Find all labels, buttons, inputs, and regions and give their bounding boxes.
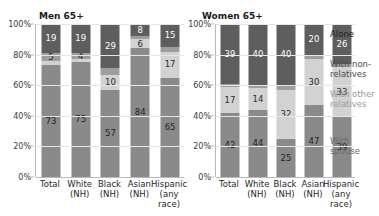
- x-tick-label: Hispanic(any race): [321, 179, 361, 209]
- bar-segment[interactable]: 32: [277, 90, 296, 139]
- y-tick-label: 60%: [193, 81, 211, 90]
- stacked-bar[interactable]: 75419: [71, 24, 90, 177]
- stacked-bar[interactable]: 73519: [41, 24, 60, 177]
- bar-segment-value: 42: [225, 141, 236, 150]
- y-tick-mark: [211, 115, 214, 116]
- gridline: [36, 146, 184, 147]
- y-tick-mark: [31, 146, 34, 147]
- y-tick-label: 40%: [193, 111, 211, 120]
- x-axis-women: TotalWhite(NH)Black(NH)Asian(NH)Hispanic…: [215, 179, 354, 215]
- bar-segment-value: 17: [225, 96, 236, 105]
- stacked-bar[interactable]: 651715: [161, 24, 180, 177]
- legend-item-other-relatives: With other relatives: [330, 90, 379, 109]
- bar-segment[interactable]: 73: [41, 65, 60, 177]
- panel-women-title: Women 65+: [202, 11, 263, 21]
- bar-segment[interactable]: 29: [101, 24, 120, 68]
- bar-segment[interactable]: [161, 47, 180, 52]
- bar-column[interactable]: 73519: [36, 24, 66, 177]
- stacked-bar[interactable]: 571029: [101, 24, 120, 177]
- stacked-bar-chart: Living arrangements of people age 65 and…: [0, 0, 379, 216]
- y-tick-label: 20%: [13, 142, 31, 151]
- y-tick-mark: [211, 177, 214, 178]
- plot-area-men: 73519754195710298468651715: [35, 24, 184, 177]
- bar-segment-value: 47: [309, 137, 320, 146]
- y-tick-mark: [211, 85, 214, 86]
- bar-segment[interactable]: [131, 36, 150, 39]
- bar-segment-value: 6: [138, 40, 143, 49]
- bar-segment-value: 57: [105, 129, 116, 138]
- x-tick-label-line1: Total: [40, 179, 60, 189]
- bar-segment-value: 15: [165, 31, 176, 40]
- bar-segment[interactable]: 8: [131, 24, 150, 36]
- legend-item-non-relatives: With non-relatives: [330, 60, 379, 79]
- x-tick-label-line2: (any race): [321, 189, 361, 209]
- bar-segment[interactable]: 30: [305, 59, 324, 105]
- bar-segment[interactable]: 42: [221, 113, 240, 177]
- bar-segment[interactable]: 75: [71, 62, 90, 177]
- x-axis-men: TotalWhite(NH)Black(NH)Asian(NH)Hispanic…: [35, 179, 183, 215]
- bar-segment-value: 19: [75, 34, 86, 43]
- y-tick-mark: [31, 177, 34, 178]
- bar-segment[interactable]: 84: [131, 48, 150, 177]
- bar-segment[interactable]: 10: [101, 75, 120, 90]
- gridline: [36, 177, 184, 178]
- bar-segment[interactable]: 44: [249, 110, 268, 177]
- y-tick-mark: [211, 54, 214, 55]
- bar-segment[interactable]: [101, 68, 120, 74]
- bar-segment[interactable]: 15: [161, 24, 180, 47]
- bar-segment-value: 14: [253, 95, 264, 104]
- y-tick-label: 40%: [13, 111, 31, 120]
- stacked-bar[interactable]: 8468: [131, 24, 150, 177]
- bar-column[interactable]: 473020: [300, 24, 328, 177]
- x-tick-label-line1: Hispanic: [151, 179, 187, 189]
- legend-item-alone: Alone: [330, 30, 354, 40]
- stacked-bar[interactable]: 421739: [221, 24, 240, 177]
- bar-segment[interactable]: 25: [277, 139, 296, 177]
- y-tick-label: 60%: [13, 81, 31, 90]
- bar-column[interactable]: 571029: [96, 24, 126, 177]
- y-tick-mark: [211, 24, 214, 25]
- y-axis-women: 100%80%60%40%20%0%: [180, 24, 214, 177]
- bar-segment[interactable]: 57: [101, 90, 120, 177]
- bar-segment[interactable]: 20: [305, 24, 324, 55]
- bars-men: 73519754195710298468651715: [36, 24, 184, 177]
- y-tick-label: 100%: [8, 20, 31, 29]
- bar-column[interactable]: 421739: [216, 24, 244, 177]
- y-tick-mark: [31, 24, 34, 25]
- bar-segment[interactable]: 19: [71, 24, 90, 53]
- bar-segment[interactable]: 6: [131, 39, 150, 48]
- bar-column[interactable]: 441440: [244, 24, 272, 177]
- stacked-bar[interactable]: 253240: [277, 24, 296, 177]
- gridline: [36, 55, 184, 56]
- legend-item-spouse: With spouse: [330, 137, 379, 156]
- bar-segment[interactable]: 65: [161, 78, 180, 177]
- bar-segment-value: 4: [78, 52, 83, 61]
- bar-segment-value: 32: [281, 110, 292, 119]
- bar-segment-value: 29: [105, 42, 116, 51]
- bar-column[interactable]: 253240: [272, 24, 300, 177]
- y-tick-mark: [211, 146, 214, 147]
- bar-column[interactable]: 8468: [125, 24, 155, 177]
- y-tick-label: 80%: [193, 50, 211, 59]
- bar-segment-value: 20: [309, 35, 320, 44]
- y-tick-mark: [31, 54, 34, 55]
- bar-segment[interactable]: 17: [221, 87, 240, 113]
- panel-men: Men 65+ 100%80%60%40%20%0% 7351975419571…: [0, 0, 190, 216]
- stacked-bar[interactable]: 441440: [249, 24, 268, 177]
- y-tick-label: 100%: [188, 20, 211, 29]
- bar-segment[interactable]: 19: [41, 24, 60, 53]
- x-tick-label-line2: (any race): [148, 189, 190, 209]
- gridline: [36, 116, 184, 117]
- bar-segment-value: 17: [165, 60, 176, 69]
- chart-legend: Alone With non-relatives With other rela…: [330, 22, 379, 182]
- y-tick-label: 80%: [13, 50, 31, 59]
- bar-column[interactable]: 75419: [66, 24, 96, 177]
- bar-segment-value: 25: [281, 154, 292, 163]
- x-tick-label-line1: Total: [219, 179, 239, 189]
- y-tick-mark: [31, 115, 34, 116]
- bar-segment[interactable]: 14: [249, 88, 268, 109]
- y-tick-label: 20%: [193, 142, 211, 151]
- stacked-bar[interactable]: 473020: [305, 24, 324, 177]
- bar-segment-value: 19: [45, 34, 56, 43]
- gridline: [36, 24, 184, 25]
